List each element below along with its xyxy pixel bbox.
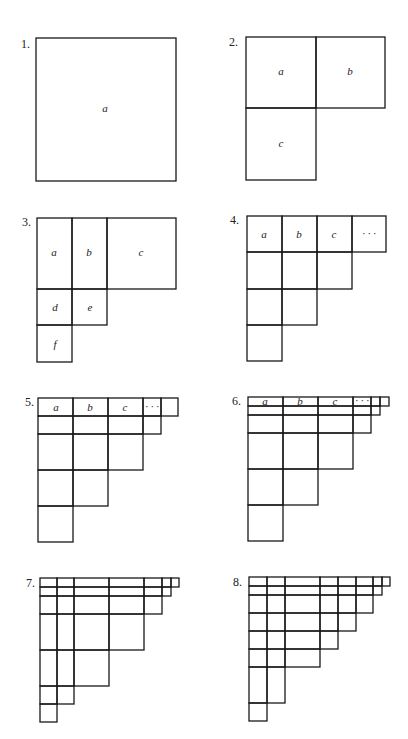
grid-cell: [320, 577, 338, 586]
panel-2: 2.abc: [229, 35, 385, 180]
cell-label: a: [262, 395, 268, 407]
grid-cell: [57, 614, 74, 650]
panel-number: 3.: [22, 215, 31, 229]
grid-cell: [283, 469, 318, 505]
grid-cell: [338, 586, 356, 595]
grid-cell: [267, 649, 285, 667]
grid-cell: [38, 506, 73, 542]
grid-cell: [373, 586, 382, 595]
grid-cell: [249, 577, 267, 586]
grid-cell: [38, 470, 73, 506]
grid-cell: [38, 416, 73, 434]
grid-cell: [285, 631, 320, 649]
grid-cell: [371, 397, 380, 406]
cell-label: · · ·: [362, 227, 376, 239]
grid-cell: [248, 505, 283, 541]
grid-cell: [318, 433, 353, 469]
grid-cell: [40, 686, 57, 704]
grid-cell: [371, 406, 380, 415]
grid-cell: [247, 325, 282, 361]
grid-cell: [249, 703, 267, 721]
grid-cell: [109, 596, 144, 614]
grid-cell: [285, 613, 320, 631]
grid-cell: [318, 415, 353, 433]
panel-1: 1.a: [21, 37, 176, 181]
panel-number: 7.: [26, 576, 35, 590]
cell-label: f: [53, 338, 58, 350]
grid-cell: [285, 649, 320, 667]
grid-cell: [248, 433, 283, 469]
grid-cell: [40, 587, 57, 596]
grid-cell: [338, 595, 356, 613]
grid-cell: [171, 578, 179, 587]
grid-cell: [249, 595, 267, 613]
panel-6: 6.abc· · ·: [232, 394, 389, 541]
grid-cell: [283, 415, 318, 433]
grid-cell: [249, 586, 267, 595]
grid-cell: [267, 577, 285, 586]
cell-label: c: [279, 137, 284, 149]
grid-cell: [380, 397, 389, 406]
grid-cell: [353, 415, 371, 433]
grid-cell: [249, 649, 267, 667]
grid-cell: [57, 596, 74, 614]
grid-cell: [40, 704, 57, 722]
grid-cell: [267, 631, 285, 649]
grid-cell: [40, 614, 57, 650]
grid-cell: [248, 415, 283, 433]
grid-cell: [267, 613, 285, 631]
grid-cell: [247, 252, 282, 289]
panel-7: 7.: [26, 576, 179, 722]
grid-cell: [356, 586, 373, 595]
cell-label: c: [139, 246, 144, 258]
grid-cell: [282, 252, 317, 289]
panel-4: 4.abc· · ·: [230, 213, 386, 361]
grid-cell: [144, 587, 162, 596]
grid-cell: [57, 686, 74, 704]
cell-label: e: [88, 301, 93, 313]
grid-cell: [283, 406, 318, 415]
cell-label: a: [261, 228, 267, 240]
cell-label: · · ·: [145, 400, 159, 412]
grid-cell: [109, 587, 144, 596]
grid-cell: [74, 650, 109, 686]
grid-cell: [74, 578, 109, 587]
cell-label: a: [278, 65, 284, 77]
grid-cell: [74, 596, 109, 614]
grid-cell: [249, 667, 267, 703]
grid-cell: [40, 578, 57, 587]
cell-label: c: [333, 395, 338, 407]
grid-cell: [109, 614, 144, 650]
grid-cell: [248, 469, 283, 505]
panel-3: 3.abcdef: [22, 215, 176, 362]
grid-cell: [320, 631, 338, 649]
grid-cell: [353, 406, 371, 415]
grid-cell: [57, 578, 74, 587]
grid-cell: [73, 416, 108, 434]
cell-label: a: [102, 102, 108, 114]
grid-cell: [40, 596, 57, 614]
grid-cell: [74, 614, 109, 650]
grid-cell: [247, 289, 282, 325]
grid-cell: [320, 613, 338, 631]
grid-cell: [73, 434, 108, 470]
grid-cell: [267, 595, 285, 613]
cell-label: a: [51, 246, 57, 258]
grid-cell: [338, 613, 356, 631]
grid-cell: [109, 578, 144, 587]
grid-cell: [161, 398, 178, 416]
grid-cell: [267, 586, 285, 595]
grid-cell: [144, 578, 162, 587]
grid-cell: [38, 434, 73, 470]
grid-cell: [73, 470, 108, 506]
grid-cell: [162, 587, 171, 596]
grid-cell: [162, 578, 171, 587]
cell-label: a: [53, 401, 59, 413]
grid-cell: [249, 613, 267, 631]
grid-cell: [249, 631, 267, 649]
grid-cell: [318, 406, 353, 415]
cell-label: b: [86, 246, 92, 258]
grid-cell: [320, 586, 338, 595]
cell-label: c: [123, 401, 128, 413]
grid-cell: [373, 577, 382, 586]
